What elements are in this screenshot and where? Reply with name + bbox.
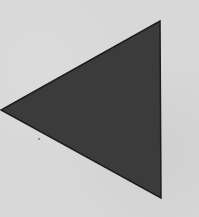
noise-speck bbox=[38, 138, 40, 140]
triangle-shape bbox=[1, 21, 161, 198]
canvas bbox=[0, 0, 199, 217]
triangle-left-icon bbox=[0, 0, 199, 217]
